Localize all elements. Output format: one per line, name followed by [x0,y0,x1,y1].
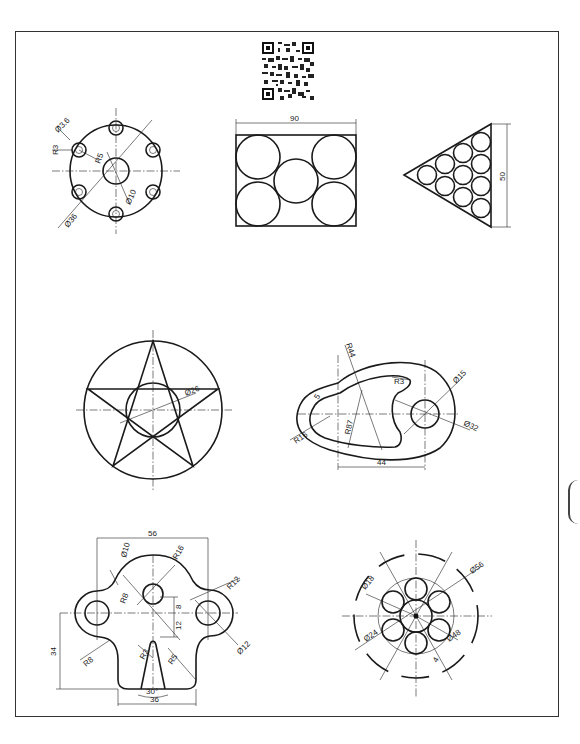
bracket-right-hole-label: Ø12 [235,639,252,656]
bracket-offset-12-label: 12 [174,621,183,630]
bracket-figure: 56 Ø10 R16 R8 [49,529,252,706]
bracket-neck-radius-label: R8 [118,591,130,604]
rect-width-label: 90 [290,114,299,123]
bracket-base-label: 36 [150,695,159,704]
bracket-left-radius-label: R8 [82,655,96,669]
fan-hub-dia-label: Ø24 [362,627,380,643]
cam-inner-radius-label: R87 [343,419,355,436]
flange-center-dia-label: Ø10 [124,188,139,206]
cam-outer-radius-label: R44 [344,342,357,359]
star-inner-dia-label: Ø26 [183,384,201,398]
fan-slot-dia-label: Ø18 [360,573,377,591]
flange-hole-dia-label: Ø3.6 [53,115,72,134]
flange-pitch-radius-label: R5 [93,151,105,164]
cam-left-radius-label: R16 [292,430,310,446]
fan-outer-dia-label: Ø56 [468,559,486,575]
bracket-slot-side-radius-label: R5 [166,652,180,666]
bracket-right-radius-label: R12 [225,574,242,591]
cam-slot-radius-label: R3 [394,377,405,386]
cam-boss-dia-label: Ø32 [462,419,480,434]
bracket-top-hole-label: Ø10 [119,541,132,558]
bracket-top-radius-label: R16 [171,543,186,561]
triangle-height-label: 50 [498,172,507,181]
cam-figure: R44 R87 R3 5 R16 Ø15 Ø32 44 [290,342,480,470]
bracket-width-label: 56 [148,529,157,538]
flange-boss-radius-label: R3 [51,144,60,155]
flange-figure: Ø3.6 R3 R5 Ø10 Ø36 [51,108,180,234]
fan-slot-width-label: 4 [431,655,441,664]
cam-hole-dia-label: Ø15 [451,368,468,385]
rect-circles-figure: 90 [236,114,356,226]
fan-pitch-dia-label: Ø48 [445,627,463,643]
star-figure: Ø26 [76,330,232,492]
flange-pcd-label: Ø36 [63,211,80,229]
bracket-offset-8-label: 8 [174,604,183,609]
triangle-circles-figure: 50 [404,124,511,227]
cam-distance-label: 44 [377,458,386,467]
fan-wheel-figure: Ø56 Ø18 Ø24 Ø48 4 [342,540,492,698]
bracket-height-label: 34 [49,647,58,656]
